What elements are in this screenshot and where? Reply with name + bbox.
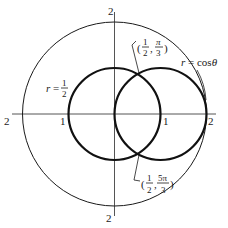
tick-label-top: 2 xyxy=(108,5,114,17)
upper-theta-num: π xyxy=(156,37,161,47)
svg-text:r = cosθ: r = cosθ xyxy=(181,56,218,68)
tick-label-right: 2 xyxy=(208,115,214,127)
svg-text:,: , xyxy=(154,178,157,190)
lower-r-den: 2 xyxy=(147,185,152,195)
upper-r-num: 1 xyxy=(143,37,148,47)
svg-text:): ) xyxy=(164,42,168,55)
upper-theta-den: 3 xyxy=(156,48,161,58)
upper-r-den: 2 xyxy=(143,48,148,58)
tick-label-inner-right: 1 xyxy=(163,115,169,127)
tick-label-left: 2 xyxy=(4,115,10,127)
label-r-half: r = 1 2 xyxy=(46,78,68,99)
svg-text:): ) xyxy=(170,178,174,191)
polar-diagram: 2 2 2 2 1 1 r = 1 2 r = cosθ ( 1 2 , π 3… xyxy=(0,0,228,228)
lower-theta-den: 3 xyxy=(161,185,166,195)
lower-theta-num: 5π xyxy=(158,173,168,183)
label-r-half-den: 2 xyxy=(62,89,67,99)
label-r-half-num: 1 xyxy=(62,78,67,88)
svg-text:(: ( xyxy=(137,42,141,55)
svg-text:=: = xyxy=(53,82,59,94)
tick-label-inner-left: 1 xyxy=(60,115,66,127)
svg-text:,: , xyxy=(150,42,153,54)
lower-r-num: 1 xyxy=(147,173,152,183)
tick-label-bottom: 2 xyxy=(106,212,112,224)
svg-text:(: ( xyxy=(141,178,145,191)
svg-text:r: r xyxy=(46,82,51,94)
